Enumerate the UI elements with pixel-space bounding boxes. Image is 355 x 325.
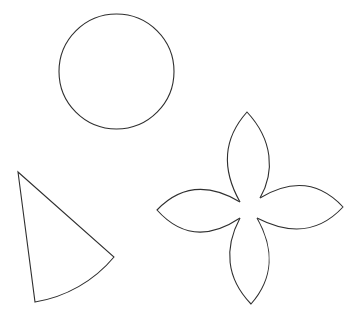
flower-petal-top	[227, 112, 269, 202]
sector-shape	[18, 172, 114, 302]
flower-petal-left	[157, 189, 240, 232]
shapes-svg	[0, 0, 355, 325]
drawing-canvas	[0, 0, 355, 325]
flower-petal-right	[257, 185, 343, 228]
circle-shape	[59, 14, 174, 129]
flower-petal-bottom	[230, 218, 269, 304]
flower-shape	[157, 112, 343, 304]
